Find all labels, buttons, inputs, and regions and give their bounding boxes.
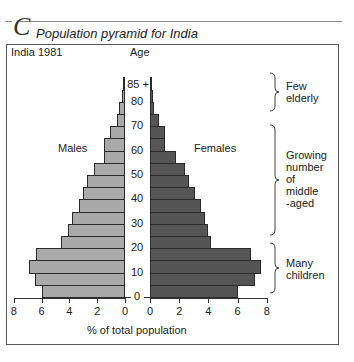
age-tick-label: 70 <box>124 119 150 131</box>
x-tick-label: 8 <box>7 305 21 317</box>
annotation-line: of <box>286 173 327 185</box>
x-tick <box>97 298 98 303</box>
x-tick-label: 4 <box>201 305 215 317</box>
brace-few-elderly-icon <box>268 72 280 112</box>
annotation-line: -aged <box>286 197 327 209</box>
chart-subtitle: India 1981 <box>11 46 62 58</box>
annotation-line: children <box>286 269 325 281</box>
age-tick-label: 10 <box>124 266 150 278</box>
male-bar <box>61 236 125 249</box>
male-bar <box>68 224 125 237</box>
female-bar <box>150 224 208 237</box>
annotation-line: Few <box>286 80 318 92</box>
male-bar <box>29 260 125 273</box>
female-bar <box>150 248 251 261</box>
annotation-many-children: Many children <box>286 257 325 281</box>
male-bar <box>94 163 125 176</box>
female-bar <box>150 236 211 249</box>
female-bar <box>150 175 189 188</box>
female-bar <box>150 212 205 225</box>
female-bar <box>150 260 261 273</box>
x-tick-label: 4 <box>62 305 76 317</box>
annotation-middle-aged: Growing number of middle -aged <box>286 149 327 209</box>
x-tick <box>179 298 180 303</box>
female-bar <box>150 90 153 103</box>
x-tick <box>42 298 43 303</box>
female-bar <box>150 273 255 286</box>
male-bar <box>79 199 125 212</box>
male-bar <box>110 126 125 139</box>
header-rule-left <box>5 21 12 22</box>
age-tick-label: 30 <box>124 217 150 229</box>
x-tick <box>150 298 151 303</box>
annotation-line: middle <box>286 185 327 197</box>
x-tick-label: 8 <box>260 305 274 317</box>
male-bar <box>42 285 125 298</box>
age-tick-label: 60 <box>124 144 150 156</box>
female-bar <box>150 114 159 127</box>
x-tick-label: 6 <box>35 305 49 317</box>
x-tick <box>208 298 209 303</box>
header-rule <box>20 21 342 22</box>
female-bar <box>150 199 201 212</box>
section-letter: C <box>13 15 30 39</box>
male-bar <box>83 187 125 200</box>
annotation-few-elderly: Few elderly <box>286 80 318 104</box>
age-tick-label: 0 <box>124 290 150 302</box>
chart-title: Population pyramid for India <box>36 26 198 41</box>
female-bar <box>150 126 165 139</box>
males-label: Males <box>58 142 87 154</box>
male-bar <box>72 212 125 225</box>
x-tick <box>125 298 126 303</box>
female-bar <box>150 285 238 298</box>
x-tick-label: 2 <box>172 305 186 317</box>
female-bar <box>150 138 165 151</box>
age-tick-label: 50 <box>124 168 150 180</box>
female-bar <box>150 151 176 164</box>
annotation-line: number <box>286 161 327 173</box>
brace-many-children-icon <box>268 242 280 294</box>
annotation-line: Growing <box>286 149 327 161</box>
female-bar <box>150 163 185 176</box>
male-bar <box>104 138 125 151</box>
x-axis-label: % of total population <box>87 324 187 336</box>
x-tick-label: 0 <box>118 305 132 317</box>
annotation-line: Many <box>286 257 325 269</box>
annotation-line: elderly <box>286 92 318 104</box>
age-tick-label: 20 <box>124 241 150 253</box>
brace-middle-aged-icon <box>268 124 280 236</box>
age-tick-label: 80 <box>124 95 150 107</box>
male-bar <box>36 248 125 261</box>
x-tick <box>14 298 15 303</box>
x-tick-label: 6 <box>231 305 245 317</box>
x-tick <box>238 298 239 303</box>
females-label: Females <box>194 142 236 154</box>
x-tick <box>69 298 70 303</box>
x-tick-label: 0 <box>143 305 157 317</box>
female-bar <box>150 187 195 200</box>
female-bar <box>150 102 154 115</box>
x-tick-label: 2 <box>90 305 104 317</box>
male-bar <box>104 151 125 164</box>
male-bar <box>87 175 125 188</box>
x-tick <box>267 298 268 303</box>
age-tick-label: 85 + <box>125 78 151 90</box>
male-bar <box>35 273 125 286</box>
age-tick-label: 40 <box>124 192 150 204</box>
age-axis-label: Age <box>130 46 150 58</box>
